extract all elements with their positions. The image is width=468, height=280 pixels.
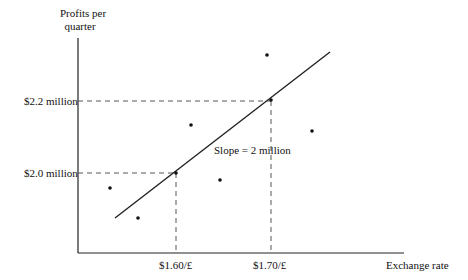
y-axis-label-line1: Profits per: [60, 7, 100, 20]
reference-lines: [78, 101, 271, 253]
x-tick-1-60: $1.60/£: [159, 259, 192, 272]
y-tick-2-0: $2.0 million: [24, 167, 78, 180]
regression-line: [115, 52, 330, 218]
y-tick-2-2: $2.2 million: [24, 95, 78, 108]
scatter-plot: [0, 0, 468, 280]
y-axis-label: Profits per quarter: [60, 7, 100, 33]
slope-annotation: Slope = 2 million: [214, 144, 291, 157]
x-tick-1-70: $1.70/£: [253, 259, 286, 272]
data-points: [108, 53, 314, 220]
x-axis-label: Exchange rate: [386, 259, 449, 272]
y-axis-label-line2: quarter: [60, 20, 100, 33]
